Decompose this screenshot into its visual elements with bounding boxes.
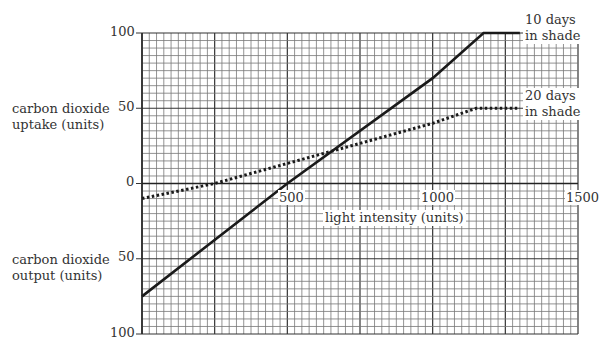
y-tick-50-bottom: 50	[118, 249, 135, 264]
y-label-uptake: carbon dioxideuptake (units)	[12, 101, 110, 133]
y-label-output: carbon dioxideoutput (units)	[12, 252, 110, 284]
grid-lines	[136, 33, 578, 334]
y-tick-50-top: 50	[118, 99, 135, 114]
chart-plot	[0, 0, 607, 352]
y-tick-100-top: 100	[110, 24, 135, 39]
legend-10-days: 10 daysin shade	[523, 12, 582, 44]
y-tick-100-bottom: 100	[110, 325, 135, 340]
x-tick-500: 500	[278, 190, 305, 205]
x-tick-1000: 1000	[420, 190, 455, 205]
x-tick-1500: 1500	[565, 190, 600, 205]
legend-20-days: 20 daysin shade	[523, 88, 582, 120]
x-axis-label: light intensity (units)	[323, 210, 466, 226]
y-tick-0: 0	[126, 174, 134, 189]
